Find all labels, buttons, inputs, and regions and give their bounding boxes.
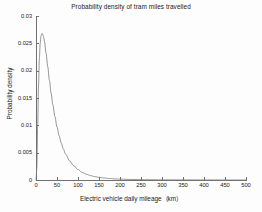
y-tick-label: 0.005 [2, 149, 32, 155]
x-tick [183, 177, 184, 180]
x-axis-line [36, 180, 247, 181]
x-axis-label: Electric vehicle daily mileage（km） [0, 194, 262, 203]
y-tick [36, 125, 39, 126]
chart-title: Probability density of tram miles travel… [0, 3, 262, 10]
x-tick [99, 177, 100, 180]
y-tick [36, 16, 39, 17]
y-tick [36, 180, 39, 181]
x-tick [36, 177, 37, 180]
y-tick [36, 98, 39, 99]
x-tick [120, 177, 121, 180]
y-axis-label: Probability density [6, 39, 13, 149]
x-tick [204, 177, 205, 180]
x-tick [246, 177, 247, 180]
y-tick [36, 71, 39, 72]
y-tick [36, 43, 39, 44]
x-tick [141, 177, 142, 180]
x-tick [57, 177, 58, 180]
x-tick [225, 177, 226, 180]
figure-canvas: Probability density of tram miles travel… [0, 0, 262, 212]
x-tick [78, 177, 79, 180]
x-tick-label: 500 [234, 182, 258, 188]
x-tick [162, 177, 163, 180]
y-tick [36, 153, 39, 154]
y-tick-label: 0.03 [2, 13, 32, 19]
plot-area [36, 16, 246, 180]
